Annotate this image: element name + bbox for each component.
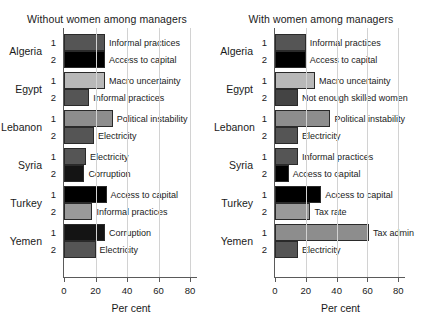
bar — [64, 186, 107, 203]
bar-row: Corruption — [64, 224, 198, 241]
bar-value-label: Informal practices — [96, 207, 167, 217]
rank-label: 1 — [257, 75, 267, 86]
rank-label: 1 — [46, 113, 56, 124]
plot-area-right: Informal practicesAccess to capitalMacro… — [275, 32, 406, 277]
bar-row: Electricity — [64, 127, 198, 144]
bar — [275, 72, 315, 89]
grouped-bar-chart-figure: Without women among managers Informal pr… — [0, 0, 428, 331]
bar — [64, 34, 105, 51]
bar-row: Not enough skilled women — [275, 89, 406, 106]
chart-panel-without-women: Without women among managers Informal pr… — [0, 0, 214, 331]
bar-value-label: Electricity — [302, 131, 341, 141]
x-axis-tick — [127, 277, 128, 282]
bar — [275, 34, 306, 51]
bar-row: Political instability — [64, 110, 198, 127]
gridline — [306, 28, 307, 277]
rank-label: 2 — [257, 206, 267, 217]
x-axis-tick-label: 0 — [272, 285, 277, 296]
bar — [64, 224, 105, 241]
x-axis-tick-label: 40 — [122, 285, 133, 296]
chart-panel-with-women: With women among managers Informal pract… — [214, 0, 428, 331]
bar-value-label: Access to capital — [111, 190, 179, 200]
bar — [275, 89, 298, 106]
bar-row: Electricity — [64, 241, 198, 258]
rank-label: 1 — [46, 75, 56, 86]
bar — [64, 241, 96, 258]
country-label: Algeria — [0, 45, 42, 57]
country-label: Yemen — [0, 235, 42, 247]
bar-value-label: Access to capital — [109, 55, 177, 65]
gridline — [127, 28, 128, 277]
bar-value-label: Electricity — [100, 245, 139, 255]
x-axis-tick-label: 60 — [153, 285, 164, 296]
bar — [275, 127, 298, 144]
bar-value-label: Electricity — [302, 245, 341, 255]
bar — [275, 51, 306, 68]
country-label: Lebanon — [0, 121, 42, 133]
gridline — [190, 28, 191, 277]
country-label: Egypt — [214, 83, 253, 95]
bar-row: Electricity — [275, 127, 406, 144]
bar-row: Informal practices — [275, 148, 406, 165]
bar — [64, 72, 105, 89]
bar — [64, 127, 94, 144]
rank-label: 2 — [257, 244, 267, 255]
x-axis-tick — [398, 277, 399, 282]
x-axis-tick-label: 60 — [362, 285, 373, 296]
rank-label: 1 — [257, 151, 267, 162]
bar-row: Informal practices — [64, 34, 198, 51]
bar — [64, 165, 84, 182]
x-axis-tick-label: 20 — [90, 285, 101, 296]
x-axis-tick — [96, 277, 97, 282]
rank-label: 2 — [257, 54, 267, 65]
bar — [275, 224, 369, 241]
bar-row: Corruption — [64, 165, 198, 182]
rank-label: 1 — [46, 37, 56, 48]
panel-title: With women among managers — [214, 13, 428, 25]
bar-value-label: Tax rate — [314, 207, 346, 217]
rank-label: 1 — [46, 151, 56, 162]
bar-value-label: Macro uncertainty — [319, 76, 391, 86]
gridline — [96, 28, 97, 277]
country-label: Syria — [0, 159, 42, 171]
rank-label: 1 — [46, 227, 56, 238]
bar-value-label: Access to capital — [293, 169, 361, 179]
bar — [64, 110, 113, 127]
rank-label: 1 — [257, 37, 267, 48]
rank-label: 1 — [46, 189, 56, 200]
rank-label: 2 — [46, 54, 56, 65]
country-label: Algeria — [214, 45, 253, 57]
bar-value-label: Political instability — [334, 114, 405, 124]
x-axis-line — [63, 277, 197, 278]
bar — [64, 51, 105, 68]
rank-label: 2 — [46, 92, 56, 103]
bar — [275, 148, 298, 165]
bar-row: Informal practices — [275, 34, 406, 51]
rank-label: 2 — [257, 130, 267, 141]
bar-row: Access to capital — [275, 186, 406, 203]
rank-label: 2 — [46, 130, 56, 141]
bar-value-label: Not enough skilled women — [302, 93, 408, 103]
bar-row: Tax rate — [275, 203, 406, 220]
bar-row: Access to capital — [275, 51, 406, 68]
rank-label: 1 — [257, 113, 267, 124]
x-axis-label: Per cent — [64, 302, 198, 314]
panel-title: Without women among managers — [0, 13, 214, 25]
rank-label: 2 — [46, 206, 56, 217]
bar-row: Informal practices — [64, 89, 198, 106]
rank-label: 2 — [46, 168, 56, 179]
rank-label: 2 — [257, 168, 267, 179]
bar-rows-left: Informal practicesAccess to capitalMacro… — [64, 32, 198, 277]
rank-label: 2 — [257, 92, 267, 103]
country-label: Lebanon — [214, 121, 253, 133]
bar-value-label: Informal practices — [109, 38, 180, 48]
bar-value-label: Access to capital — [325, 190, 393, 200]
bar — [64, 89, 89, 106]
x-axis-tick — [159, 277, 160, 282]
gridline — [367, 28, 368, 277]
rank-label: 1 — [257, 227, 267, 238]
country-label: Syria — [214, 159, 253, 171]
plot-area-left: Informal practicesAccess to capitalMacro… — [64, 32, 198, 277]
x-axis-tick-label: 0 — [61, 285, 66, 296]
x-axis-tick-label: 40 — [331, 285, 342, 296]
